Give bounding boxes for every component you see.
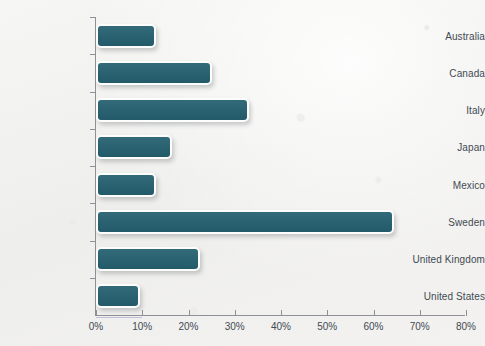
bar: [96, 98, 249, 122]
x-axis-tick: [466, 310, 467, 316]
y-axis-tick: [90, 129, 96, 130]
y-axis-category-label: United Kingdom: [397, 254, 485, 265]
y-axis-tick: [90, 241, 96, 242]
x-axis-tick-label: 0%: [89, 321, 103, 332]
x-axis-tick: [189, 310, 190, 316]
x-axis-highlight-underline: [96, 317, 142, 318]
x-axis-tick-label: 70%: [410, 321, 430, 332]
y-axis-category-label: Mexico: [397, 179, 485, 190]
x-axis-tick-label: 50%: [317, 321, 337, 332]
x-axis-tick: [327, 310, 328, 316]
bar-chart: AustraliaCanadaItalyJapanMexicoSwedenUni…: [0, 0, 485, 346]
y-axis-category-label: United States: [397, 291, 485, 302]
y-axis-tick: [90, 203, 96, 204]
bar: [96, 61, 212, 85]
x-axis-tick-label: 40%: [271, 321, 291, 332]
x-axis-tick-label: 20%: [178, 321, 198, 332]
bar: [96, 135, 172, 159]
y-axis-category-label: Japan: [397, 142, 485, 153]
y-axis-tick: [90, 278, 96, 279]
x-axis-tick-label: 10%: [132, 321, 152, 332]
x-axis-tick: [374, 310, 375, 316]
bar: [96, 247, 200, 271]
y-axis-category-label: Sweden: [397, 216, 485, 227]
bar: [96, 210, 394, 234]
bar: [96, 284, 140, 308]
y-axis-category-label: Canada: [397, 67, 485, 78]
y-axis-tick: [90, 92, 96, 93]
x-axis-tick-label: 30%: [225, 321, 245, 332]
plot-area: AustraliaCanadaItalyJapanMexicoSwedenUni…: [0, 0, 485, 346]
y-axis-top-cap-tick: [90, 17, 96, 18]
x-axis-tick: [142, 310, 143, 316]
x-axis-tick: [420, 310, 421, 316]
y-axis-tick: [90, 166, 96, 167]
y-axis-category-label: Italy: [397, 105, 485, 116]
bar: [96, 24, 156, 48]
x-axis-tick: [281, 310, 282, 316]
y-axis-category-label: Australia: [397, 30, 485, 41]
bar: [96, 173, 156, 197]
x-axis-tick: [96, 310, 97, 316]
x-axis-line: [95, 315, 465, 316]
x-axis-tick-label: 80%: [456, 321, 476, 332]
x-axis-tick: [235, 310, 236, 316]
y-axis-tick: [90, 54, 96, 55]
x-axis-tick-label: 60%: [363, 321, 383, 332]
